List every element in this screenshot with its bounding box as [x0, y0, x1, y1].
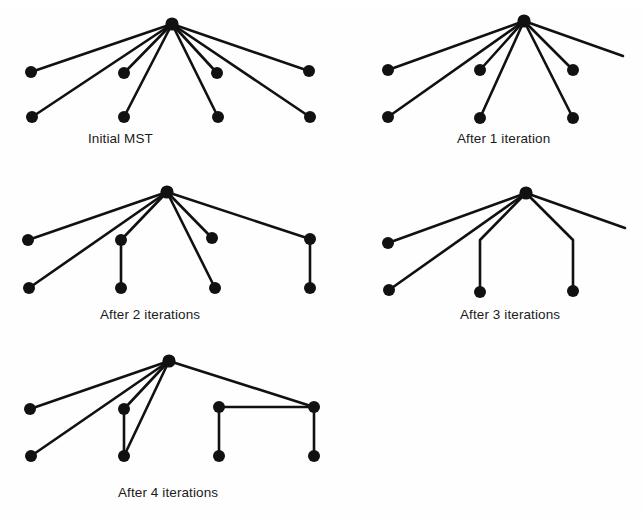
node-box-left-upper — [213, 401, 225, 413]
edge-hub-box-right-upper — [169, 361, 314, 407]
node-mid-upper — [474, 64, 486, 76]
node-midleft-lower — [118, 450, 130, 462]
edge-hub-left-lower — [29, 192, 167, 288]
node-right-lower — [304, 282, 316, 294]
graph-drawing-after-1-iteration — [340, 0, 643, 128]
node-midleft-lower — [118, 111, 130, 123]
graph-panel-after-2-iterations — [0, 170, 340, 298]
edge-group — [30, 361, 314, 456]
node-right-lower — [304, 111, 316, 123]
node-right-upper — [567, 64, 579, 76]
edge-group — [28, 192, 310, 288]
node-box-right-upper — [308, 401, 320, 413]
node-midleft-upper — [115, 234, 127, 246]
edge-hub-truncated-right — [526, 193, 625, 228]
node-left-lower — [383, 284, 395, 296]
edge-hub-left-lower — [32, 24, 172, 117]
graph-panel-after-3-iterations — [340, 170, 643, 298]
node-box-right-lower — [308, 450, 320, 462]
node-midright-lower — [212, 111, 224, 123]
node-midleft-upper — [118, 67, 130, 79]
node-left-upper — [382, 64, 394, 76]
graph-panel-initial-mst — [0, 0, 340, 128]
node-left-lower — [23, 282, 35, 294]
node-midleft-lower — [115, 282, 127, 294]
node-mid-lower — [474, 112, 486, 124]
node-right-upper — [304, 233, 316, 245]
panel-caption-initial-mst: Initial MST — [88, 131, 153, 146]
node-midright-upper — [206, 232, 218, 244]
edge-hub-left-upper — [28, 192, 167, 240]
node-right-lower — [567, 285, 579, 297]
edge-group — [388, 193, 625, 292]
node-left-upper — [382, 237, 394, 249]
node-mid-lower — [474, 286, 486, 298]
panel-caption-after-2-iterations: After 2 iterations — [100, 307, 200, 322]
node-hub — [165, 17, 178, 30]
node-group — [25, 17, 316, 123]
graph-drawing-after-2-iterations — [0, 170, 340, 298]
panel-caption-after-3-iterations: After 3 iterations — [460, 307, 560, 322]
node-midright-upper — [211, 67, 223, 79]
node-hub — [517, 14, 530, 27]
node-hub — [160, 185, 173, 198]
node-group — [22, 185, 316, 294]
edge-group — [388, 21, 623, 118]
graph-drawing-after-3-iterations — [340, 170, 643, 298]
panel-caption-after-1-iteration: After 1 iteration — [457, 131, 550, 146]
node-left-upper — [22, 234, 34, 246]
node-right-lower — [567, 112, 579, 124]
edge-hub-left-upper — [388, 193, 526, 243]
node-midleft-upper — [118, 403, 130, 415]
edge-hub-right-lower — [172, 24, 310, 117]
node-right-upper — [303, 65, 315, 77]
node-left-upper — [25, 66, 37, 78]
node-box-left-lower — [213, 450, 225, 462]
graph-drawing-initial-mst — [0, 0, 340, 128]
edge-group — [31, 24, 310, 117]
edge-hub-left-lower — [31, 361, 169, 456]
panel-caption-after-4-iterations: After 4 iterations — [118, 485, 218, 500]
node-left-lower — [25, 450, 37, 462]
graph-panel-after-1-iteration — [340, 0, 643, 128]
graph-panel-after-4-iterations — [0, 340, 360, 470]
node-midright-lower — [209, 282, 221, 294]
node-left-upper — [24, 403, 36, 415]
edge-hub-left-lower — [389, 193, 526, 290]
graph-drawing-after-4-iterations — [0, 340, 360, 470]
figure-canvas: Initial MSTAfter 1 iterationAfter 2 iter… — [0, 0, 643, 518]
node-hub — [519, 186, 532, 199]
node-left-lower — [382, 111, 394, 123]
node-left-lower — [26, 111, 38, 123]
node-hub — [162, 354, 175, 367]
